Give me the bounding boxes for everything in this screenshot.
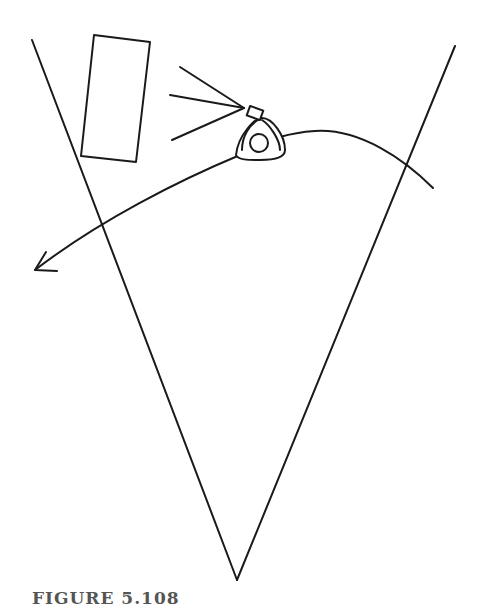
rays — [170, 67, 244, 140]
movement-path — [35, 131, 433, 270]
rectangle-object — [81, 35, 150, 162]
figure-caption: FIGURE 5.108 — [32, 588, 180, 608]
person-figure — [236, 106, 285, 160]
view-wedge — [32, 40, 455, 580]
